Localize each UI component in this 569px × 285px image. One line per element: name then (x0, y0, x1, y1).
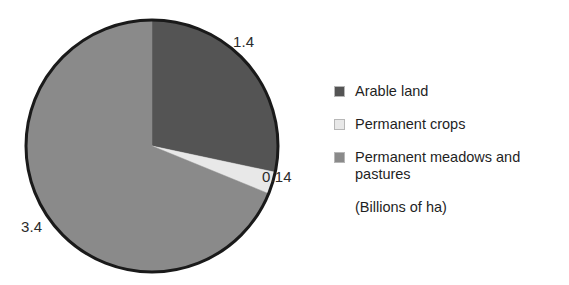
legend-label-permanent-crops: Permanent crops (355, 116, 465, 133)
pie-chart-figure: 1.4 0.14 3.4 Arable land Permanent crops… (0, 0, 569, 285)
pie-chart-svg (0, 0, 310, 285)
pie-plot-area: 1.4 0.14 3.4 (0, 0, 310, 285)
data-label-permanent-meadows: 3.4 (21, 218, 42, 235)
legend-label-permanent-meadows-and-pastures: Permanent meadows and pastures (355, 149, 566, 183)
legend-item-permanent-meadows[interactable]: Permanent meadows and pastures (334, 149, 566, 183)
legend-label-arable-land: Arable land (355, 83, 428, 100)
chart-legend: Arable land Permanent crops Permanent me… (334, 83, 566, 216)
legend-item-permanent-crops[interactable]: Permanent crops (334, 116, 566, 133)
legend-item-arable-land[interactable]: Arable land (334, 83, 566, 100)
legend-unit-note: (Billions of ha) (355, 199, 566, 216)
data-label-arable-land: 1.4 (233, 33, 254, 50)
data-label-permanent-crops: 0.14 (262, 168, 292, 185)
legend-swatch-arable-icon (334, 86, 345, 97)
legend-swatch-meadows-icon (334, 152, 345, 163)
legend-swatch-crops-icon (334, 119, 345, 130)
pie-slice-arable-land[interactable] (152, 20, 278, 172)
